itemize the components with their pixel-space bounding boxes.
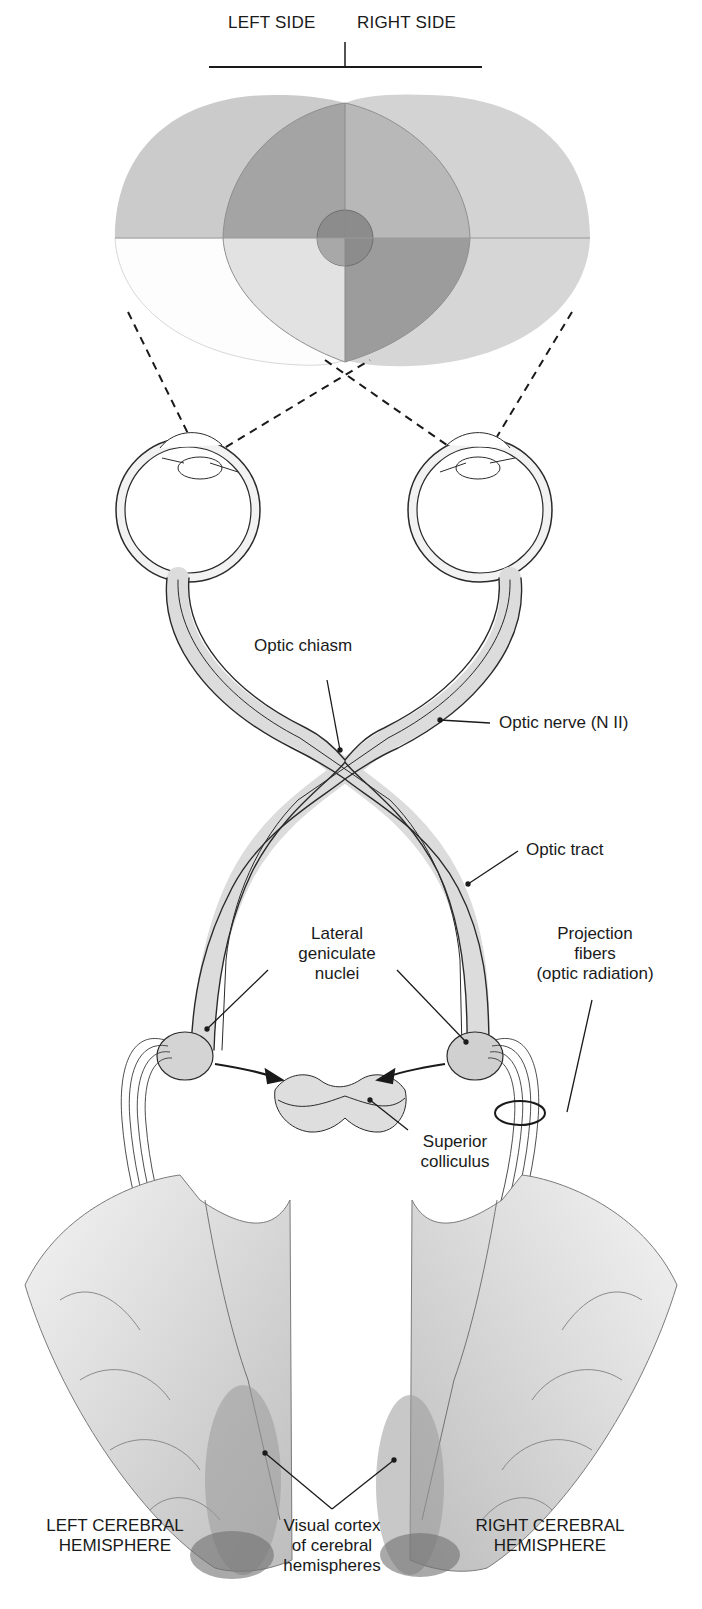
leader-optic-nerve (440, 720, 490, 723)
leader-projection-fibers (567, 1000, 592, 1112)
leader-lgn-right (397, 970, 466, 1042)
right-side-heading: RIGHT SIDE (357, 13, 456, 33)
right-lgn (447, 1032, 503, 1080)
label-optic-nerve: Optic nerve (N II) (499, 713, 628, 733)
right-eye (408, 433, 552, 582)
left-lgn (157, 1032, 213, 1080)
label-optic-chiasm: Optic chiasm (254, 636, 352, 656)
left-side-heading: LEFT SIDE (228, 13, 315, 33)
label-left-cerebral-hemisphere: LEFT CEREBRAL HEMISPHERE (30, 1516, 200, 1556)
label-optic-tract: Optic tract (526, 840, 603, 860)
projection-fibers-marker (495, 1101, 545, 1125)
visual-fields (17, 62, 627, 366)
label-right-cerebral-hemisphere: RIGHT CEREBRAL HEMISPHERE (460, 1516, 640, 1556)
label-superior-colliculus: Superior colliculus (400, 1132, 510, 1172)
label-lateral-geniculate-nuclei: Lateral geniculate nuclei (272, 924, 402, 984)
lgn-to-colliculus-arrows (215, 1064, 445, 1083)
visual-pathway-diagram (0, 0, 702, 1609)
label-projection-fibers: Projection fibers (optic radiation) (520, 924, 670, 984)
leader-optic-tract (468, 851, 518, 884)
label-visual-cortex: Visual cortex of cerebral hemispheres (262, 1516, 402, 1576)
left-eye (116, 433, 260, 582)
superior-colliculus (275, 1075, 406, 1132)
leader-optic-chiasm (327, 680, 340, 750)
